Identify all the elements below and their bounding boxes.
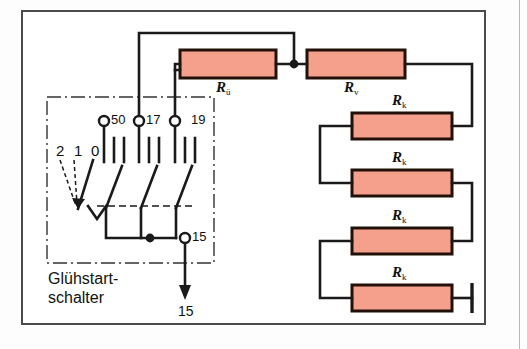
resistor-Rk-1-subscript: k (402, 100, 407, 110)
resistor-Rk-1-body (352, 113, 452, 139)
resistor-Ru-body (180, 50, 276, 78)
terminal-19-label: 19 (191, 112, 205, 127)
terminal-19-icon[interactable] (170, 116, 180, 126)
resistor-Rk-3-label: Rk (392, 207, 407, 224)
resistor-Rk-2-subscript: k (402, 157, 407, 167)
switch-blade-50 (106, 166, 122, 208)
switch-blade-19 (176, 166, 192, 208)
resistor-Rv-label: Rv (344, 79, 359, 96)
switch-position-0-label: 0 (91, 142, 99, 159)
switch-caption-line1: Glühstart- (48, 270, 118, 287)
wire-Rk2-to-Rk3 (452, 183, 472, 241)
resistor-Rv-subscript: v (354, 87, 359, 97)
diagram-canvas: Rü Rv Rk Rk Rk Rk 50 17 19 15 2 1 0 Glüh… (0, 0, 527, 349)
terminal-15-label: 15 (192, 229, 206, 244)
resistor-Rk-3-subscript: k (402, 215, 407, 225)
terminal-50-label: 50 (111, 112, 125, 127)
junction-node-common (146, 234, 155, 243)
output-arrowhead (179, 285, 191, 300)
switch-blade-17 (141, 166, 157, 208)
terminal-17-label: 17 (146, 112, 160, 127)
resistor-Rk-4-label: Rk (392, 264, 407, 281)
terminal-50-icon[interactable] (99, 116, 109, 126)
resistor-Rk-3-body (352, 228, 452, 254)
resistor-Ru-subscript: ü (226, 87, 231, 97)
resistor-Rk-2-label: Rk (392, 149, 407, 166)
junction-node-Ru-Rv (290, 60, 299, 69)
wire-Rk1-to-Rk2 (320, 126, 352, 183)
resistor-Rk-4-body (352, 285, 452, 311)
switch-caption-line2: schalter (48, 289, 104, 306)
switch-rocker-v (88, 206, 106, 219)
output-terminal-15-label: 15 (178, 303, 194, 319)
switch-position-2-label: 2 (56, 142, 64, 159)
resistor-Ru-label: Rü (216, 79, 231, 96)
switch-position-1-label: 1 (74, 142, 82, 159)
resistor-Rv-body (307, 50, 405, 78)
selector-dashed-pos1 (74, 160, 77, 204)
resistor-Rk-1-label: Rk (392, 92, 407, 109)
resistor-Rk-2-body (352, 170, 452, 196)
terminal-17-icon[interactable] (134, 116, 144, 126)
wire-Rk3-to-Rk4 (320, 241, 352, 298)
resistor-Rk-4-subscript: k (402, 272, 407, 282)
terminal-15-icon[interactable] (180, 233, 190, 243)
